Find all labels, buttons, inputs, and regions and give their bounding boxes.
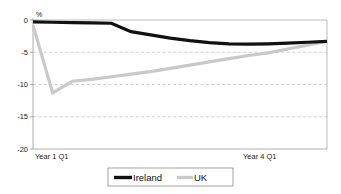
ytick-label-minus5: -5 — [21, 48, 28, 57]
ytick-label-0: 0 — [24, 16, 28, 25]
y-tickmarks — [30, 20, 33, 149]
ytick-label-minus20: -20 — [17, 145, 28, 154]
series-line-uk — [33, 25, 327, 93]
line-chart: 0 -5 -10 -15 -20 % Year 1 Q1 Year 4 Q1 I… — [0, 0, 341, 194]
y-axis-labels: 0 -5 -10 -15 -20 — [17, 16, 28, 154]
plot-frame — [33, 18, 327, 149]
xtick-label-year1q1: Year 1 Q1 — [35, 152, 69, 161]
chart-legend: Ireland UK — [108, 168, 233, 186]
x-axis-labels: Year 1 Q1 Year 4 Q1 — [35, 152, 277, 161]
legend-label-ireland: Ireland — [133, 172, 162, 183]
series-line-ireland — [33, 22, 327, 44]
xtick-label-year4q1: Year 4 Q1 — [243, 152, 277, 161]
legend-label-uk: UK — [194, 172, 208, 183]
y-axis-unit-label: % — [36, 11, 42, 18]
ytick-label-minus10: -10 — [17, 80, 28, 89]
gridlines — [33, 52, 327, 117]
ytick-label-minus15: -15 — [17, 112, 28, 121]
data-series — [33, 22, 327, 93]
chart-canvas: 0 -5 -10 -15 -20 % Year 1 Q1 Year 4 Q1 I… — [0, 0, 341, 194]
